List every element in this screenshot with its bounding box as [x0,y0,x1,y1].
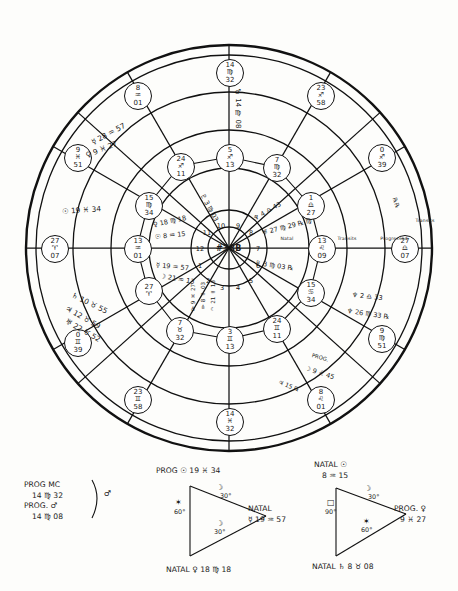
cusp-9[interactable]: 23 ♐ 58 [307,82,335,110]
center-vertex-right-line-2: ☿ 19 ♒ 57 [248,515,286,526]
inner-cusp-ic[interactable]: 3 ♊ 13 [216,326,244,354]
inner-cusp-3[interactable]: 7 ♉ 32 [166,317,194,345]
right-angle-top: 30° [368,493,379,501]
center-angle-top-symbol: ☽ [216,483,223,492]
house-number-5: 5 [249,277,253,285]
ring-label-transits-1: Transits [337,236,356,241]
cusp-minute: 58 [134,404,143,411]
right-vertex-bottom: NATAL ♄ 8 ♉ 08 [312,562,374,573]
vertical-note-3-text: ☽ 21 ♒ 13 [210,280,216,312]
ring-label-natal: Natal [280,236,293,241]
cusp-minute: 51 [74,162,83,169]
cusp-minute: 01 [134,253,143,260]
house-number-7: 7 [256,245,260,253]
cusp-asc[interactable]: 27 ♈ 07 [41,235,69,263]
cusp-minute: 07 [401,253,410,260]
center-vertex-bottom: NATAL ♀ 18 ♍ 18 [166,565,231,576]
inner-cusp-2[interactable]: 27 ♈ [135,277,163,305]
right-vertex-top: NATAL ☉ 8 ♒ 15 [314,460,348,481]
cusp-mc[interactable]: 14 ♍ 32 [216,59,244,87]
cusp-minute: 01 [317,404,326,411]
inner-cusp-dsc[interactable]: 13 ♌ 09 [308,235,336,263]
house-number-12: 12 [196,245,204,253]
inner-cusp-asc[interactable]: 13 ♒ 01 [124,235,152,263]
cusp-minute: 39 [378,162,387,169]
cusp-minute: 32 [176,335,185,342]
cusp-minute: 13 [226,162,235,169]
house-number-10: 10 [217,222,225,230]
vertical-note-2-text: ☿ 8 ♒ 03 [200,282,206,310]
cusp-sign: ♈ [146,291,152,298]
right-angle-left-symbol: □ [327,498,335,507]
right-angle-top-symbol: ☽ [364,484,371,493]
cusp-minute: 58 [317,100,326,107]
inner-cusp-8[interactable]: 1 ♎ 27 [297,192,325,220]
cusp-8[interactable]: 0 ♐ 39 [368,144,396,172]
cusp-ic[interactable]: 14 ♓ 32 [216,408,244,436]
center-angle-left-symbol: ✶ [175,498,182,507]
center-vertex-right: NATAL ☿ 19 ♒ 57 [248,504,286,525]
prog-mc-line-2: 14 ♍ 32 [24,491,63,502]
right-angle-left: 90° [325,508,336,516]
center-angle-diag-symbol: ☽ [216,519,223,528]
note-mars-top: ♂ 14 ♍ 08 [234,88,242,129]
center-angle-top: 30° [220,492,231,500]
prog-mc-aspect-symbol: ♂ [104,489,111,498]
inner-cusp-mc[interactable]: 5 ♐ 13 [216,144,244,172]
prog-mc-brace [88,478,128,522]
cusp-minute: 13 [226,344,235,351]
cusp-5[interactable]: 8 ♌ 01 [307,386,335,414]
cusp-minute: 34 [145,210,154,217]
legend-prog-mc: PROG MC 14 ♍ 32 PROG. ♂ 14 ♍ 08 [24,480,63,522]
vertical-note-2: ☿ 8 ♒ 03 [200,282,206,310]
inner-cusp-12[interactable]: 15 ♍ 34 [135,192,163,220]
inner-cusp-6[interactable]: 15 ♋ 34 [297,279,325,307]
right-vertex-right-line-1: PROG. ♀ [394,504,426,515]
right-angle-diag-symbol: ✶ [363,517,370,526]
house-number-11: 11 [203,229,211,237]
vertical-note-1: ♀ 9 ♓ 27 [190,284,196,312]
legend-area: PROG MC 14 ♍ 32 PROG. ♂ 14 ♍ 08 ♂ PROG ☉… [0,452,458,591]
right-vertex-top-line-2: 8 ♒ 15 [314,471,348,482]
house-number-9: 9 [236,222,240,230]
inner-cusp-5[interactable]: 24 ♊ 11 [263,315,291,343]
cusp-minute: 11 [177,171,186,178]
cusp-minute: 32 [226,426,235,433]
cusp-6[interactable]: 9 ♍ 51 [368,325,396,353]
note-mars-top-text: ♂ 14 ♍ 08 [234,88,242,129]
house-number-1: 1 [198,262,202,270]
right-vertex-top-line-1: NATAL ☉ [314,460,348,471]
cusp-minute: 07 [51,253,60,260]
ring-label-progressed: Progressed [380,236,407,241]
chart-id-label: #38B [216,244,242,253]
inner-cusp-9[interactable]: 7 ♍ 32 [263,154,291,182]
prog-mc-line-1: PROG MC [24,480,63,491]
center-triangle-title: PROG ☉ 19 ♓ 34 [156,466,220,475]
house-number-4: 4 [236,284,240,292]
right-vertex-right: PROG. ♀ 9 ♓ 27 [394,504,426,525]
house-number-8: 8 [249,229,253,237]
inner-cusp-11[interactable]: 24 ♐ 11 [167,153,195,181]
right-vertex-right-line-2: 9 ♓ 27 [394,515,426,526]
ring-label-transits-2: Transits [415,218,434,223]
cusp-minute: 32 [273,172,282,179]
prog-mc-line-4: 14 ♍ 08 [24,512,63,523]
cusp-11[interactable]: 8 ♒ 01 [124,82,152,110]
center-angle-left: 60° [174,508,185,516]
center-vertex-right-line-1: NATAL [248,504,286,515]
cusp-minute: 09 [318,253,327,260]
prog-mc-line-3: PROG. ♂ [24,501,63,512]
cusp-minute: 32 [226,77,235,84]
cusp-minute: 11 [273,333,282,340]
house-number-3: 3 [220,284,224,292]
cusp-minute: 34 [307,297,316,304]
cusp-minute: 01 [134,100,143,107]
center-angle-diag: 30° [214,528,225,536]
right-angle-diag: 60° [361,526,372,534]
cusp-minute: 27 [307,210,316,217]
vertical-note-3: ☽ 21 ♒ 13 [210,280,216,312]
cusp-3[interactable]: 23 ♊ 58 [124,386,152,414]
cusp-minute: 39 [74,347,83,354]
cusp-minute: 51 [378,343,387,350]
astrology-wheel: 27 ♈ 07 0 ♊ 39 23 ♊ 58 14 ♓ 32 8 ♌ 01 9 … [0,0,458,458]
